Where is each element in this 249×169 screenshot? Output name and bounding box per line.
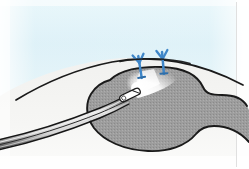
figure-root: Transmural needle injection beneath a su… [0, 0, 249, 169]
suture-right-base [160, 73, 167, 74]
suture-left-base [138, 77, 145, 78]
bottom-margin-fade [0, 156, 249, 169]
top-margin-fade [0, 0, 249, 6]
medical-illustration-canvas [0, 0, 249, 169]
